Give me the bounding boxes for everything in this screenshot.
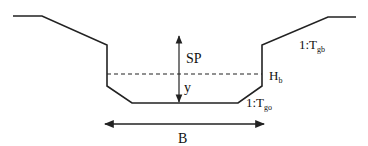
bankfull-height-label: Hb [269, 68, 282, 85]
freeboard-label: SP [186, 51, 202, 66]
channel-cross-section-diagram: SP y Hb 1:Tgb 1:Tgo B [0, 0, 368, 146]
bank-slope-label: 1:Tgb [299, 37, 325, 54]
bottom-slope-label: 1:Tgo [246, 95, 272, 112]
width-label: B [178, 131, 187, 146]
depth-label: y [184, 80, 191, 95]
